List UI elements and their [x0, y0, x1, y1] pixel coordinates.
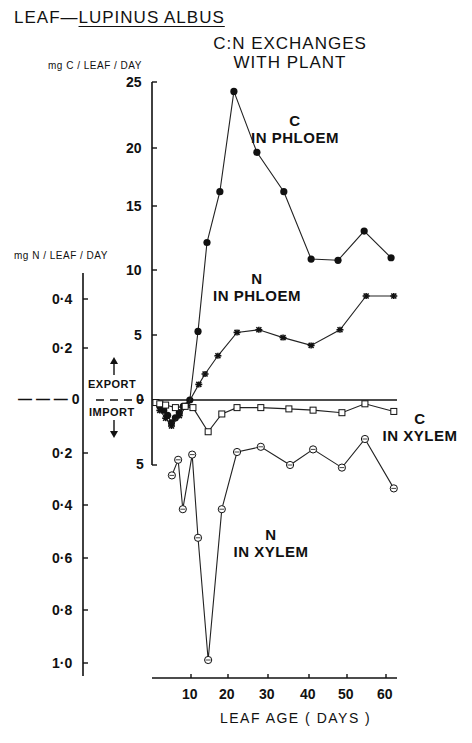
data-point	[234, 405, 240, 411]
series-c-in-xylem	[153, 400, 397, 435]
data-point	[234, 329, 241, 335]
data-point	[390, 293, 397, 299]
data-point	[336, 327, 343, 333]
import-arrowhead-icon	[110, 431, 118, 438]
data-point	[286, 406, 292, 412]
data-point	[387, 254, 394, 261]
data-point	[219, 411, 225, 417]
axes-group	[83, 82, 397, 678]
data-point	[202, 371, 209, 377]
data-point	[255, 327, 262, 333]
data-point	[195, 381, 202, 387]
data-point	[280, 188, 287, 195]
data-point	[308, 342, 315, 348]
series-layer	[153, 88, 398, 664]
export-arrowhead-icon	[110, 357, 118, 364]
series-c-in-phloem	[156, 88, 394, 427]
data-point	[203, 239, 210, 246]
data-point	[190, 405, 196, 411]
data-point	[214, 353, 221, 359]
data-point	[182, 403, 188, 409]
data-point	[216, 188, 223, 195]
data-point	[280, 335, 287, 341]
data-point	[179, 506, 186, 513]
data-point	[258, 405, 264, 411]
series-n-in-xylem	[168, 435, 397, 663]
data-point	[162, 415, 169, 421]
data-point	[233, 448, 240, 455]
data-point	[339, 410, 345, 416]
data-point	[363, 293, 370, 299]
data-point	[168, 472, 175, 479]
plot-area	[0, 0, 472, 743]
data-point	[175, 456, 182, 463]
data-point	[361, 227, 368, 234]
data-point	[286, 461, 293, 468]
data-point	[157, 401, 163, 407]
data-point	[334, 257, 341, 264]
data-point	[218, 506, 225, 513]
data-point	[309, 446, 316, 453]
data-point	[338, 464, 345, 471]
data-point	[168, 423, 175, 429]
data-point	[194, 328, 201, 335]
data-point	[308, 255, 315, 262]
data-point	[362, 401, 368, 407]
data-point	[194, 534, 201, 541]
data-point	[172, 405, 178, 411]
data-point	[205, 656, 212, 663]
data-point	[205, 429, 211, 435]
data-point	[253, 149, 260, 156]
data-point	[391, 408, 397, 414]
data-point	[257, 443, 264, 450]
data-point	[310, 407, 316, 413]
data-point	[189, 451, 196, 458]
data-point	[361, 435, 368, 442]
data-point	[176, 413, 183, 419]
data-point	[230, 88, 237, 95]
data-point	[390, 485, 397, 492]
data-point	[163, 402, 169, 408]
